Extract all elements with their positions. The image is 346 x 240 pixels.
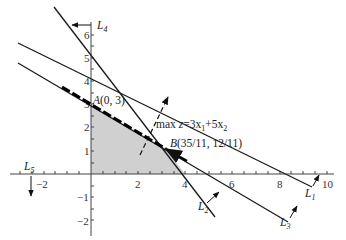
svg-text:2: 2: [135, 178, 141, 190]
y-tick-labels: −2 −1 1 2 3 4 5 6: [77, 29, 90, 227]
svg-text:10: 10: [322, 178, 334, 190]
svg-text:1: 1: [84, 145, 90, 157]
lp-diagram: −2 2 4 6 8 10 −2 −1 1 2 3 4 5 6 L4 L5 L1…: [0, 0, 346, 240]
objective-function-label: max z=3x1+5x2: [156, 118, 227, 133]
x-tick-labels: −2 2 4 6 8 10: [36, 178, 334, 190]
svg-text:8: 8: [277, 178, 283, 190]
label-L1: L1: [304, 187, 315, 202]
L2-direction-arrow: [207, 192, 219, 203]
svg-text:2: 2: [84, 121, 90, 133]
label-L3: L3: [279, 216, 290, 231]
label-L5: L5: [23, 160, 34, 175]
label-point-B: B(35/11, 12/11): [170, 137, 242, 150]
line-L3: [18, 63, 288, 222]
label-L4: L4: [96, 19, 107, 34]
L1-direction-arrow: [313, 175, 319, 186]
label-L2: L2: [197, 200, 208, 215]
L3-direction-arrow: [290, 206, 297, 218]
svg-text:−2: −2: [36, 178, 48, 190]
svg-text:6: 6: [84, 29, 90, 41]
svg-text:−1: −1: [77, 191, 89, 203]
svg-text:−2: −2: [77, 215, 89, 227]
label-point-A: A(0, 3): [92, 94, 125, 107]
